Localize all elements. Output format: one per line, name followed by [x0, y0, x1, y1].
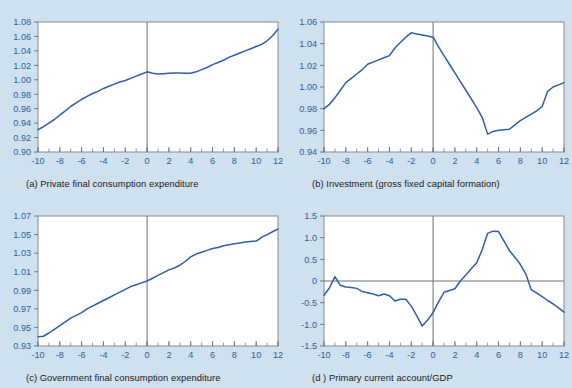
panel-c-caption-text: (c) Government final consumption expendi…	[26, 372, 220, 383]
panel-b: 0.940.960.981.001.021.041.06-10-8-6-4-20…	[286, 0, 572, 194]
x-tick-label: 2	[452, 156, 457, 166]
x-tick-label: 4	[188, 156, 193, 166]
y-tick-label: 0.97	[13, 304, 31, 314]
x-tick-label: -2	[121, 156, 129, 166]
y-tick-label: 0.93	[13, 341, 31, 351]
panel-d: -1.5-1.0-0.500.51.01.5-10-8-6-4-20246810…	[286, 194, 572, 388]
panel-a: 0.900.920.940.960.981.001.021.041.061.08…	[0, 0, 286, 194]
chart-c-svg: 0.930.950.970.991.011.031.051.07-10-8-6-…	[0, 194, 286, 369]
y-tick-label: 1.00	[13, 75, 31, 85]
x-tick-label: 10	[251, 156, 261, 166]
x-tick-label: 6	[210, 350, 215, 360]
y-tick-label: 0.95	[13, 323, 31, 333]
x-tick-label: 6	[496, 156, 501, 166]
chart-d-svg: -1.5-1.0-0.500.51.01.5-10-8-6-4-20246810…	[286, 194, 572, 369]
x-tick-label: -4	[99, 156, 107, 166]
panel-a-caption: (a) Private final consumption expenditur…	[26, 178, 198, 189]
x-tick-label: -6	[364, 350, 372, 360]
y-tick-label: 1.08	[13, 17, 31, 27]
chart-d: -1.5-1.0-0.500.51.01.5-10-8-6-4-20246810…	[301, 211, 569, 360]
panel-a-caption-text: (a) Private final consumption expenditur…	[26, 178, 198, 189]
panel-c-plot: 0.930.950.970.991.011.031.051.07-10-8-6-…	[0, 194, 286, 369]
y-tick-label: 1.01	[13, 267, 31, 277]
x-tick-label: -8	[56, 350, 64, 360]
x-tick-label: -10	[31, 350, 44, 360]
y-tick-label: 1.02	[13, 61, 31, 71]
x-tick-label: 0	[431, 350, 436, 360]
y-tick-label: 1.0	[304, 233, 317, 243]
y-tick-label: 1.07	[13, 211, 31, 221]
x-tick-label: -2	[407, 156, 415, 166]
x-tick-label: 4	[188, 350, 193, 360]
x-tick-label: -6	[364, 156, 372, 166]
y-tick-label: 0.92	[13, 133, 31, 143]
x-tick-label: -8	[342, 156, 350, 166]
panel-c-caption: (c) Government final consumption expendi…	[26, 372, 220, 383]
x-tick-label: 8	[232, 156, 237, 166]
y-tick-label: 1.04	[13, 46, 31, 56]
x-tick-label: 0	[431, 156, 436, 166]
y-tick-label: 1.02	[299, 61, 317, 71]
panel-b-plot: 0.940.960.981.001.021.041.06-10-8-6-4-20…	[286, 0, 572, 175]
y-tick-label: 0	[312, 276, 317, 286]
x-tick-label: 8	[518, 350, 523, 360]
x-tick-label: -8	[342, 350, 350, 360]
y-tick-label: -1.5	[301, 341, 317, 351]
x-tick-label: 12	[559, 350, 569, 360]
x-tick-label: 0	[145, 156, 150, 166]
y-tick-label: 1.06	[299, 17, 317, 27]
panel-c: 0.930.950.970.991.011.031.051.07-10-8-6-…	[0, 194, 286, 388]
x-tick-label: 2	[452, 350, 457, 360]
y-tick-label: -1.0	[301, 320, 317, 330]
x-tick-label: 12	[273, 156, 283, 166]
panel-d-caption-text: (d ) Primary current account/GDP	[312, 372, 453, 383]
x-tick-label: 0	[145, 350, 150, 360]
x-tick-label: -4	[385, 350, 393, 360]
x-tick-label: 2	[166, 156, 171, 166]
x-tick-label: -2	[407, 350, 415, 360]
x-tick-label: -2	[121, 350, 129, 360]
chart-a-svg: 0.900.920.940.960.981.001.021.041.061.08…	[0, 0, 286, 175]
x-tick-label: -4	[385, 156, 393, 166]
y-tick-label: 0.90	[13, 147, 31, 157]
x-tick-label: 6	[496, 350, 501, 360]
y-tick-label: 0.96	[299, 126, 317, 136]
chart-b: 0.940.960.981.001.021.041.06-10-8-6-4-20…	[299, 17, 569, 166]
x-tick-label: 12	[273, 350, 283, 360]
x-tick-label: 10	[537, 350, 547, 360]
panel-b-caption: (b) Investment (gross fixed capital form…	[312, 178, 500, 189]
y-tick-label: 1.5	[304, 211, 317, 221]
panel-d-plot: -1.5-1.0-0.500.51.01.5-10-8-6-4-20246810…	[286, 194, 572, 369]
y-tick-label: -0.5	[301, 298, 317, 308]
panel-a-plot: 0.900.920.940.960.981.001.021.041.061.08…	[0, 0, 286, 175]
y-tick-label: 0.99	[13, 286, 31, 296]
y-tick-label: 1.06	[13, 32, 31, 42]
panel-d-caption: (d ) Primary current account/GDP	[312, 372, 453, 383]
x-tick-label: -10	[317, 350, 330, 360]
x-tick-label: -10	[31, 156, 44, 166]
y-tick-label: 1.00	[299, 82, 317, 92]
x-tick-label: -8	[56, 156, 64, 166]
y-tick-label: 0.5	[304, 255, 317, 265]
y-tick-label: 1.04	[299, 39, 317, 49]
chart-c: 0.930.950.970.991.011.031.051.07-10-8-6-…	[13, 211, 283, 360]
x-tick-label: 6	[210, 156, 215, 166]
figure-container: 0.900.920.940.960.981.001.021.041.061.08…	[0, 0, 572, 388]
plot-frame	[324, 22, 564, 152]
chart-a: 0.900.920.940.960.981.001.021.041.061.08…	[13, 17, 283, 166]
plot-frame	[38, 216, 278, 346]
x-tick-label: -4	[99, 350, 107, 360]
x-tick-label: 4	[474, 350, 479, 360]
chart-b-svg: 0.940.960.981.001.021.041.06-10-8-6-4-20…	[286, 0, 572, 175]
plot-frame	[38, 22, 278, 152]
y-tick-label: 0.98	[13, 90, 31, 100]
y-tick-label: 0.94	[13, 118, 31, 128]
x-tick-label: -6	[78, 350, 86, 360]
y-tick-label: 0.96	[13, 104, 31, 114]
x-tick-label: -10	[317, 156, 330, 166]
x-tick-label: 8	[232, 350, 237, 360]
x-tick-label: 10	[537, 156, 547, 166]
panel-b-caption-text: (b) Investment (gross fixed capital form…	[312, 178, 500, 189]
x-tick-label: 2	[166, 350, 171, 360]
x-tick-label: 4	[474, 156, 479, 166]
